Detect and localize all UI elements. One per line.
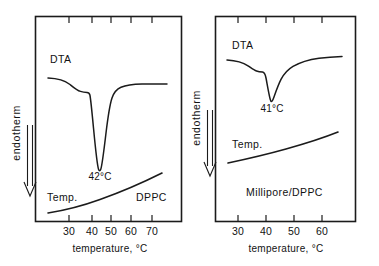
right-xtick-2: 50 xyxy=(288,225,300,237)
left-temp-label: Temp. xyxy=(47,191,78,203)
left-top-ticks xyxy=(69,17,152,23)
right-top-ticks xyxy=(238,17,322,23)
left-panel: endotherm 42°C DTA Temp. DPPC 30 40 xyxy=(0,0,195,266)
right-dta-curve xyxy=(227,56,342,101)
right-sample-label: Millipore/DPPC xyxy=(246,186,323,198)
left-xtick-0: 30 xyxy=(63,225,75,237)
left-xtick-1: 40 xyxy=(86,225,98,237)
right-xtick-0: 30 xyxy=(232,225,244,237)
right-x-tick-labels: 30 40 50 60 xyxy=(232,225,328,237)
left-peak-label: 42°C xyxy=(88,171,111,182)
left-endotherm-arrow-icon xyxy=(24,125,36,196)
left-bottom-ticks xyxy=(69,215,152,221)
left-xtick-4: 70 xyxy=(146,225,158,237)
right-panel: endotherm 41°C DTA Temp. Millipore/DPPC … xyxy=(190,0,379,266)
right-xtick-3: 60 xyxy=(316,225,328,237)
left-x-axis-title: temperature, °C xyxy=(72,243,147,254)
right-y-axis-label: endotherm xyxy=(190,90,202,146)
right-xtick-1: 40 xyxy=(260,225,272,237)
left-dta-curve xyxy=(48,78,167,171)
right-bottom-ticks xyxy=(238,215,322,221)
right-dta-label: DTA xyxy=(232,39,253,51)
left-xtick-2: 50 xyxy=(105,225,117,237)
right-x-axis-title: temperature, °C xyxy=(248,243,323,254)
right-peak-label: 41°C xyxy=(260,103,283,114)
left-dta-label: DTA xyxy=(50,53,71,65)
left-sample-label: DPPC xyxy=(136,191,167,203)
right-panel-svg: endotherm 41°C DTA Temp. Millipore/DPPC … xyxy=(190,0,379,266)
left-panel-svg: endotherm 42°C DTA Temp. DPPC 30 40 xyxy=(0,0,195,266)
right-temp-label: Temp. xyxy=(232,138,263,150)
left-y-axis-label: endotherm xyxy=(10,105,22,161)
left-xtick-3: 60 xyxy=(125,225,137,237)
dta-thermogram-figure: endotherm 42°C DTA Temp. DPPC 30 40 xyxy=(0,0,379,266)
left-x-tick-labels: 30 40 50 60 70 xyxy=(63,225,158,237)
right-endotherm-arrow-icon xyxy=(204,110,216,176)
